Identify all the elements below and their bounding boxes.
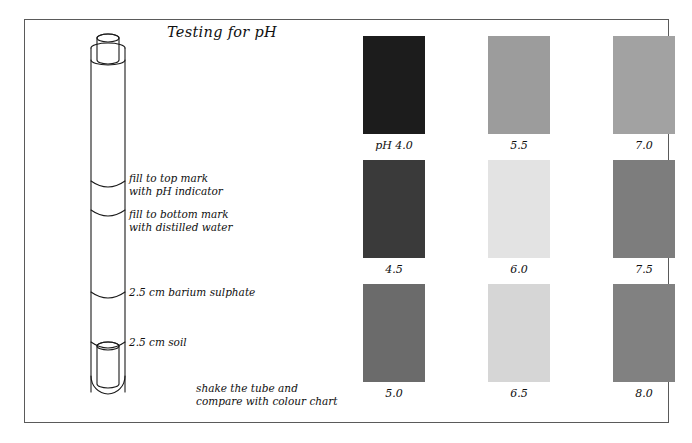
tube-label-soil-line1: 2.5 cm soil bbox=[129, 336, 187, 349]
instruction-line2: compare with colour chart bbox=[196, 395, 338, 408]
tube-label-barium-sulphate: 2.5 cm barium sulphate bbox=[129, 286, 255, 299]
colour-swatch-cell-5-5: 5.5 bbox=[488, 36, 550, 152]
tube-label-bottom-mark: fill to bottom mark with distilled water bbox=[129, 208, 232, 234]
colour-chart-row: pH 4.0 5.5 7.0 bbox=[355, 36, 667, 160]
instruction-line1: shake the tube and bbox=[196, 382, 338, 395]
colour-swatch-ph-4-0 bbox=[363, 36, 425, 134]
colour-swatch-label-7-5: 7.5 bbox=[613, 263, 675, 276]
page-title: Testing for pH bbox=[167, 24, 277, 40]
colour-swatch-5-0 bbox=[363, 284, 425, 382]
colour-swatch-label-6-5: 6.5 bbox=[488, 387, 550, 400]
colour-swatch-cell-4-5: 4.5 bbox=[363, 160, 425, 276]
colour-swatch-cell-7-0: 7.0 bbox=[613, 36, 675, 152]
colour-swatch-4-5 bbox=[363, 160, 425, 258]
tube-cap-rim bbox=[97, 34, 119, 42]
tube-label-bottom-mark-line2: with distilled water bbox=[129, 221, 232, 234]
mark-top-indicator bbox=[91, 181, 125, 187]
colour-swatch-7-0 bbox=[613, 36, 675, 134]
colour-swatch-cell-7-5: 7.5 bbox=[613, 160, 675, 276]
colour-swatch-8-0 bbox=[613, 284, 675, 382]
colour-swatch-7-5 bbox=[613, 160, 675, 258]
tube-bottom bbox=[91, 376, 125, 394]
colour-swatch-6-0 bbox=[488, 160, 550, 258]
tube-shoulder-left bbox=[91, 43, 125, 48]
mark-soil bbox=[91, 342, 125, 348]
colour-swatch-label-7-0: 7.0 bbox=[613, 139, 675, 152]
colour-swatch-cell-6-5: 6.5 bbox=[488, 284, 550, 400]
colour-chart-row: 4.5 6.0 7.5 bbox=[355, 160, 667, 284]
colour-swatch-label-5-5: 5.5 bbox=[488, 139, 550, 152]
figure-root: Testing for pH bbox=[0, 0, 692, 443]
colour-swatch-label-5-0: 5.0 bbox=[363, 387, 425, 400]
colour-chart: pH 4.0 5.5 7.0 4.5 6.0 7.5 bbox=[355, 36, 667, 408]
tube-label-top-mark: fill to top mark with pH indicator bbox=[129, 172, 223, 198]
colour-swatch-cell-5-0: 5.0 bbox=[363, 284, 425, 400]
colour-swatch-label-4-5: 4.5 bbox=[363, 263, 425, 276]
colour-swatch-label-6-0: 6.0 bbox=[488, 263, 550, 276]
colour-swatch-label-ph-4-0: pH 4.0 bbox=[363, 139, 425, 152]
instruction-shake-compare: shake the tube and compare with colour c… bbox=[196, 382, 338, 408]
colour-swatch-label-8-0: 8.0 bbox=[613, 387, 675, 400]
colour-swatch-cell-8-0: 8.0 bbox=[613, 284, 675, 400]
mark-barium-sulphate bbox=[91, 292, 125, 298]
tube-cap bbox=[97, 34, 119, 64]
colour-chart-row: 5.0 6.5 8.0 bbox=[355, 284, 667, 408]
tube-label-bottom-mark-line1: fill to bottom mark bbox=[129, 208, 232, 221]
tube-label-barium-sulphate-line1: 2.5 cm barium sulphate bbox=[129, 286, 255, 299]
colour-swatch-6-5 bbox=[488, 284, 550, 382]
tube-label-top-mark-line1: fill to top mark bbox=[129, 172, 223, 185]
mark-bottom-water bbox=[91, 210, 125, 216]
tube-label-top-mark-line2: with pH indicator bbox=[129, 185, 223, 198]
tube-base-insert-rim bbox=[97, 342, 119, 350]
tube-label-soil: 2.5 cm soil bbox=[129, 336, 187, 349]
colour-swatch-cell-ph-4-0: pH 4.0 bbox=[363, 36, 425, 152]
colour-swatch-5-5 bbox=[488, 36, 550, 134]
colour-swatch-cell-6-0: 6.0 bbox=[488, 160, 550, 276]
